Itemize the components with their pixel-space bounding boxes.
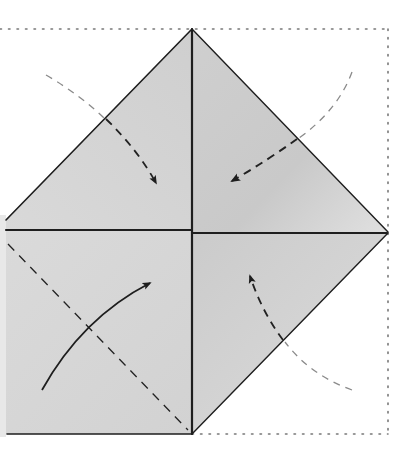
origami-diagram xyxy=(0,0,416,474)
diagram-canvas xyxy=(0,0,416,474)
bottom-left-square xyxy=(5,230,192,434)
top-left-flap xyxy=(5,29,192,230)
